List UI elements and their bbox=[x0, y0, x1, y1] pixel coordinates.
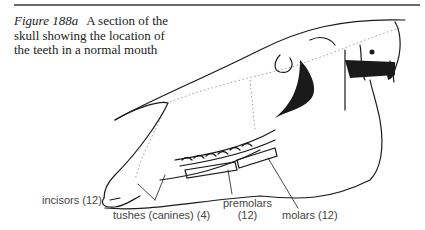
label-molars: molars (12) bbox=[282, 209, 338, 221]
label-tushes: tushes (canines) (4) bbox=[113, 209, 210, 221]
label-premolars: premolars (12) bbox=[223, 197, 272, 221]
label-premolars-line2: (12) bbox=[223, 209, 272, 221]
label-premolars-line1: premolars bbox=[223, 197, 272, 209]
label-incisors: incisors (12) bbox=[42, 194, 102, 206]
